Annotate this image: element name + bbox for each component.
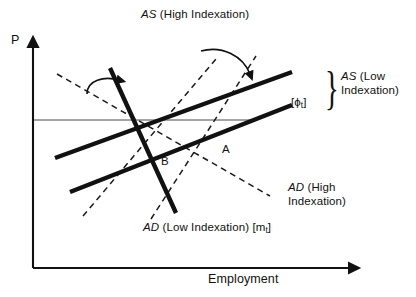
equilibrium-point-b-label: B [161,155,169,169]
shift-arrow-right [201,49,250,74]
brace-as-low-indexation: } [325,62,339,115]
dashed-curves-group [57,56,270,219]
label-as-low-text-1: (Low [357,70,386,82]
label-as-low-text-2: Indexation) [341,84,399,96]
economics-diagram-figure: AS (High Indexation) } AS (LowIndexation… [0,0,416,297]
ad-low-indexation-curve [110,68,176,213]
label-as-high-text: (High Indexation) [157,8,250,20]
label-ad-low-text: (Low Indexation) [m [159,221,265,233]
label-ad-high-indexation: AD (HighIndexation) [288,181,346,208]
label-as-low-indexation: AS (LowIndexation) [341,70,399,97]
label-ad-high-text-2: Indexation) [288,195,346,207]
phi-bracket-close: ] [303,96,306,108]
label-phi-parameter: [ϕt] [291,96,306,111]
equilibrium-point-a-label: A [222,143,230,157]
label-as-high-abbr: AS [141,8,157,20]
label-ad-high-abbr: AD [288,181,304,193]
label-as-high-indexation: AS (High Indexation) [141,8,249,22]
as-high-indexation-curve-left [83,59,216,216]
as-low-indexation-curve-lower [70,105,292,192]
label-ad-high-text-1: (High [304,181,335,193]
employment-axis-label: Employment [208,272,278,287]
label-ad-low-indexation: AD (Low Indexation) [mt] [143,221,271,236]
price-level-axis-label: P [11,33,19,48]
label-as-low-abbr: AS [341,70,357,82]
solid-curves-group [55,68,292,213]
diagram-canvas [0,0,416,297]
label-ad-low-abbr: AD [143,221,159,233]
money-bracket-close: ] [268,221,271,233]
